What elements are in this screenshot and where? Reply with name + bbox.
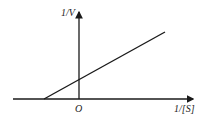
data-line <box>44 32 165 99</box>
origin-label: O <box>75 103 82 114</box>
y-axis-label: 1/V <box>61 7 77 18</box>
x-axis-label: 1/[S] <box>174 103 195 114</box>
lineweaver-burk-plot: 1/V O 1/[S] <box>0 0 206 125</box>
